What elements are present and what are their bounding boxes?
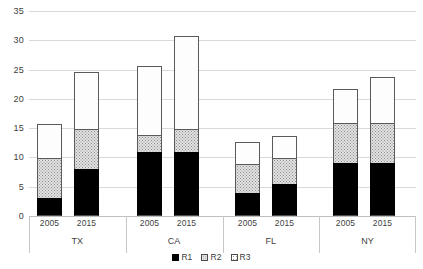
legend-item-r2[interactable]: R2 xyxy=(201,252,221,262)
y-axis-tick-label: 35 xyxy=(14,6,24,16)
x-axis-year-label: 2005 xyxy=(130,218,170,228)
bar-segment-r2[interactable] xyxy=(272,158,297,184)
legend-swatch-r2-icon xyxy=(201,254,208,261)
x-axis-group-label-tx: TX xyxy=(29,236,126,246)
y-axis-tick-label: 5 xyxy=(19,182,24,192)
x-axis-year-label: 2005 xyxy=(326,218,366,228)
bar-segment-r2[interactable] xyxy=(333,123,358,164)
bar-ny-2015[interactable] xyxy=(370,75,395,216)
bars-layer xyxy=(29,11,416,216)
bar-segment-r3[interactable] xyxy=(174,36,199,130)
bar-segment-r2[interactable] xyxy=(370,123,395,164)
x-axis-year-label: 2015 xyxy=(363,218,403,228)
x-axis-year-label: 2005 xyxy=(228,218,268,228)
x-axis-group-label-ca: CA xyxy=(126,236,223,246)
plot-area xyxy=(29,11,416,216)
category-axis: 20052015TX20052015CA20052015FL20052015NY xyxy=(29,216,416,253)
y-axis-tick-label: 10 xyxy=(14,152,24,162)
bar-segment-r1[interactable] xyxy=(333,163,358,216)
bar-ny-2005[interactable] xyxy=(333,87,358,216)
bar-segment-r3[interactable] xyxy=(333,89,358,124)
bar-ca-2005[interactable] xyxy=(137,64,162,216)
bar-segment-r1[interactable] xyxy=(174,152,199,216)
bar-fl-2015[interactable] xyxy=(272,134,297,216)
bar-segment-r2[interactable] xyxy=(137,135,162,153)
bar-segment-r3[interactable] xyxy=(235,142,260,165)
bar-segment-r3[interactable] xyxy=(137,66,162,136)
bar-segment-r1[interactable] xyxy=(235,193,260,216)
x-axis-group-label-ny: NY xyxy=(319,236,416,246)
bar-segment-r2[interactable] xyxy=(235,164,260,193)
axis-separator xyxy=(415,216,416,253)
x-axis-year-label: 2015 xyxy=(265,218,305,228)
x-axis-year-label: 2015 xyxy=(67,218,107,228)
axis-separator xyxy=(126,216,127,253)
legend-label: R2 xyxy=(210,252,221,262)
bar-segment-r3[interactable] xyxy=(370,77,395,124)
bar-segment-r3[interactable] xyxy=(74,72,99,131)
legend-item-r3[interactable]: R3 xyxy=(231,252,251,262)
bar-segment-r1[interactable] xyxy=(137,152,162,216)
y-axis-tick-label: 15 xyxy=(14,123,24,133)
bar-segment-r1[interactable] xyxy=(272,184,297,216)
bar-segment-r1[interactable] xyxy=(74,169,99,216)
bar-segment-r3[interactable] xyxy=(272,136,297,159)
y-axis-tick-label: 30 xyxy=(14,35,24,45)
axis-separator xyxy=(223,216,224,253)
bar-tx-2015[interactable] xyxy=(74,70,99,216)
x-axis-year-label: 2005 xyxy=(30,218,70,228)
y-axis-tick-label: 20 xyxy=(14,94,24,104)
y-axis-tick-label: 25 xyxy=(14,65,24,75)
x-axis-group-label-fl: FL xyxy=(223,236,320,246)
x-axis-year-label: 2015 xyxy=(167,218,207,228)
chart-legend: R1R2R3 xyxy=(0,252,423,262)
legend-swatch-r1-icon xyxy=(172,254,179,261)
legend-label: R3 xyxy=(240,252,251,262)
stacked-bar-chart: 35302520151050 20052015TX20052015CA20052… xyxy=(0,0,423,269)
y-axis-tick-label: 0 xyxy=(19,211,24,221)
bar-segment-r2[interactable] xyxy=(174,129,199,152)
bar-segment-r3[interactable] xyxy=(37,124,62,159)
bar-fl-2005[interactable] xyxy=(235,140,260,216)
axis-separator xyxy=(319,216,320,253)
bar-segment-r2[interactable] xyxy=(37,158,62,199)
bar-segment-r1[interactable] xyxy=(37,198,62,216)
bar-segment-r1[interactable] xyxy=(370,163,395,216)
legend-swatch-r3-icon xyxy=(231,254,238,261)
y-axis-tick-labels: 35302520151050 xyxy=(0,11,24,216)
legend-item-r1[interactable]: R1 xyxy=(172,252,192,262)
legend-label: R1 xyxy=(181,252,192,262)
bar-tx-2005[interactable] xyxy=(37,122,62,216)
bar-segment-r2[interactable] xyxy=(74,129,99,170)
bar-ca-2015[interactable] xyxy=(174,34,199,216)
